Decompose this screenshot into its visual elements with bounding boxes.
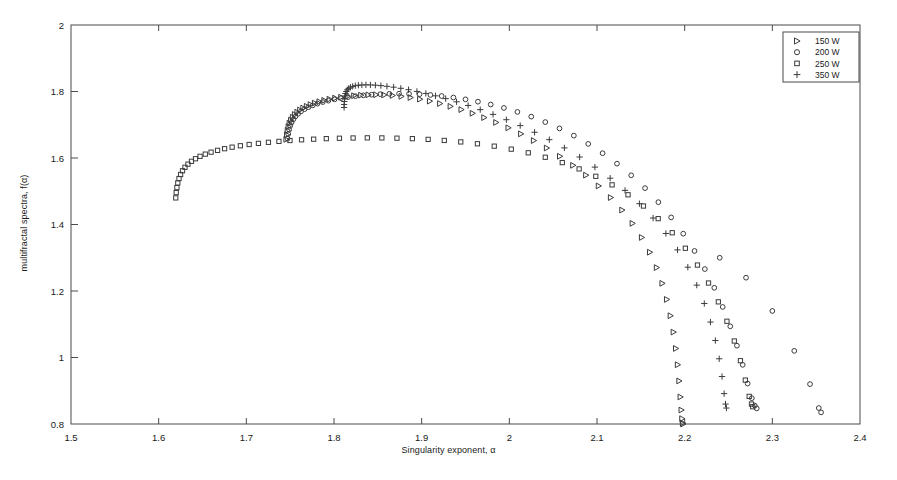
- legend[interactable]: 150 W200 W250 W350 W: [783, 32, 859, 82]
- y-tick-label: 1.2: [51, 286, 64, 297]
- y-tick-label: 1.4: [51, 219, 64, 230]
- x-tick-label: 1.5: [64, 432, 77, 443]
- x-tick-label: 2.1: [590, 432, 603, 443]
- x-tick-label: 2.4: [853, 432, 866, 443]
- x-tick-label: 2: [507, 432, 512, 443]
- plot-background: [0, 0, 897, 480]
- figure-root: 1.51.61.71.81.922.12.22.32.40.811.21.41.…: [0, 0, 897, 480]
- x-axis-label: Singularity exponent, α: [0, 445, 897, 455]
- y-tick-label: 1.6: [51, 153, 64, 164]
- legend-label[interactable]: 350 W: [815, 70, 840, 80]
- x-tick-label: 2.3: [766, 432, 779, 443]
- y-tick-label: 1: [59, 352, 64, 363]
- x-tick-label: 1.8: [327, 432, 340, 443]
- legend-label[interactable]: 150 W: [815, 36, 840, 46]
- y-tick-label: 0.8: [51, 419, 64, 430]
- multifractal-spectra-plot: 1.51.61.71.81.922.12.22.32.40.811.21.41.…: [0, 0, 897, 480]
- x-tick-label: 1.6: [152, 432, 165, 443]
- x-tick-label: 2.2: [678, 432, 691, 443]
- y-axis-label: multifractal spectra, f(α): [19, 113, 29, 333]
- legend-label[interactable]: 200 W: [815, 47, 840, 57]
- legend-label[interactable]: 250 W: [815, 59, 840, 69]
- y-tick-label: 1.8: [51, 86, 64, 97]
- x-tick-label: 1.9: [415, 432, 428, 443]
- x-tick-label: 1.7: [240, 432, 253, 443]
- y-tick-label: 2: [59, 20, 64, 31]
